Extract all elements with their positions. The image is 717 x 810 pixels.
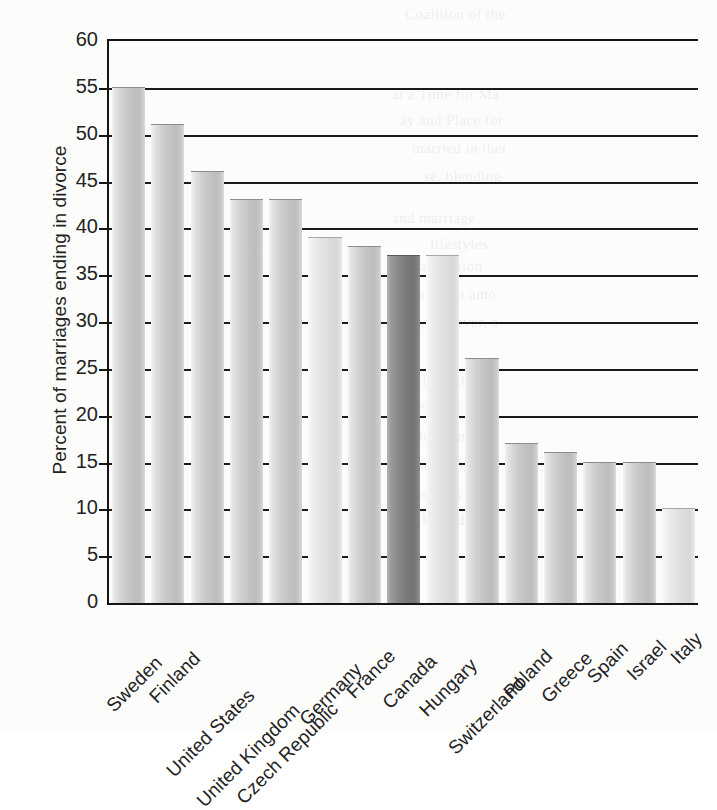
bar-united-states: [191, 171, 224, 603]
bar-sweden: [112, 87, 145, 603]
y-axis-tick-mark: [99, 275, 109, 277]
x-axis-tick-label: Israel: [622, 636, 671, 685]
bar-germany: [308, 237, 341, 603]
bar-poland: [505, 443, 538, 603]
y-axis-tick-label: 40: [58, 215, 98, 238]
y-axis-tick-mark: [99, 463, 109, 465]
x-axis-tick-labels: SwedenFinlandUnited StatesUnited Kingdom…: [107, 603, 696, 733]
y-axis-tick-mark: [99, 182, 109, 184]
y-axis-tick-mark: [99, 228, 109, 230]
y-axis-tick-mark: [99, 556, 109, 558]
y-axis-tick-label: 15: [58, 449, 98, 472]
bar-italy: [662, 508, 695, 603]
bar-united-kingdom: [230, 199, 263, 603]
y-axis-tick-label: 35: [58, 262, 98, 285]
y-axis-tick-label: 25: [58, 355, 98, 378]
bar-israel: [623, 462, 656, 604]
y-axis-tick-label: 30: [58, 309, 98, 332]
bar-hungary: [426, 255, 459, 603]
bar-greece: [544, 452, 577, 603]
y-axis-tick-label: 10: [58, 496, 98, 519]
y-axis-tick-label: 60: [58, 28, 98, 51]
y-axis-tick-mark: [99, 509, 109, 511]
y-axis-tick-mark: [99, 369, 109, 371]
bar-series: [109, 41, 698, 603]
y-axis-tick-label: 50: [58, 121, 98, 144]
y-axis-tick-label: 45: [58, 168, 98, 191]
y-axis-tick-mark: [99, 88, 109, 90]
bar-france: [348, 246, 381, 603]
bar-czech-republic: [269, 199, 302, 603]
y-axis-tick-mark: [99, 416, 109, 418]
y-axis-tick-mark: [99, 322, 109, 324]
bar-switzerland: [465, 358, 498, 603]
y-axis-tick-label: 55: [58, 74, 98, 97]
y-axis-tick-mark: [99, 135, 109, 137]
y-axis-tick-label: 5: [58, 543, 98, 566]
bar-spain: [583, 462, 616, 604]
bar-canada: [387, 255, 420, 603]
bar-finland: [151, 124, 184, 603]
plot-area: [107, 39, 698, 605]
y-axis-tick-label: 20: [58, 402, 98, 425]
y-axis-tick-label: 0: [58, 590, 98, 613]
